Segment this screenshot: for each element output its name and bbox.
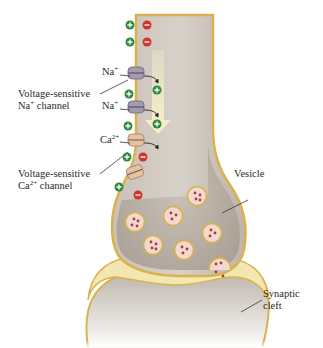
positive-charge-icon (124, 122, 133, 131)
vesicle (203, 224, 222, 243)
negative-charge-icon (139, 153, 148, 162)
na-channel-label: Voltage-sensitive Na+ channel (18, 88, 90, 112)
positive-charge-icon (153, 120, 162, 129)
na-ion-label-2: Na+ (102, 100, 118, 112)
vesicle (188, 187, 207, 206)
ca-ion-label: Ca2+ (100, 134, 119, 146)
vesicle (144, 236, 163, 255)
positive-charge-icon (126, 21, 135, 30)
positive-charge-icon (153, 86, 162, 95)
ca-channel-label: Voltage-sensitive Ca2+ channel (18, 168, 90, 192)
negative-charge-icon (134, 191, 143, 200)
vesicle (175, 241, 194, 260)
positive-charge-icon (126, 38, 135, 47)
vesicle-label: Vesicle (234, 168, 264, 180)
positive-charge-icon (125, 90, 134, 99)
ca-channel-1 (128, 134, 144, 146)
vesicle (164, 207, 183, 226)
negative-charge-icon (143, 21, 152, 30)
na-channel-2 (128, 101, 144, 113)
vesicle (126, 213, 145, 232)
positive-charge-icon (123, 153, 132, 162)
negative-charge-icon (143, 38, 152, 47)
positive-charge-icon (115, 183, 124, 192)
na-ion-label-1: Na+ (102, 66, 118, 78)
synaptic-cleft-label: Synaptic cleft (263, 288, 300, 312)
na-channel-1 (128, 67, 144, 79)
